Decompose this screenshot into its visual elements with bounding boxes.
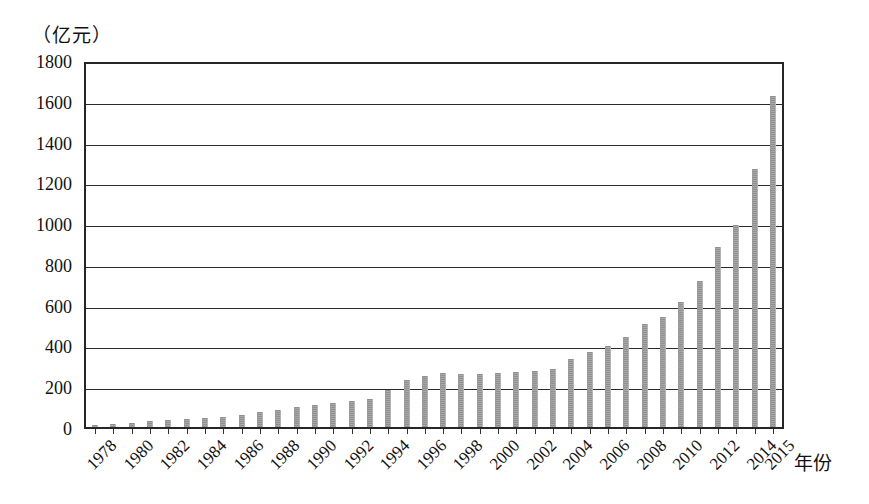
bar-slot [544, 64, 562, 427]
y-axis-tick-1000: 1000 [36, 215, 72, 236]
bar-slot [764, 64, 782, 427]
bar-2012 [715, 247, 721, 427]
bar-1995 [404, 380, 410, 427]
bar-2008 [642, 324, 648, 427]
bar-slot [434, 64, 452, 427]
bar-slot [324, 64, 342, 427]
y-axis-tick-600: 600 [45, 296, 72, 317]
y-axis-tick-400: 400 [45, 337, 72, 358]
x-axis-label-1994: 1994 [376, 436, 414, 474]
bar-slot [471, 64, 489, 427]
bar-slot [709, 64, 727, 427]
y-axis-tick-200: 200 [45, 378, 72, 399]
bar-series [86, 64, 782, 427]
x-axis-label-1980: 1980 [120, 436, 158, 474]
bar-slot [507, 64, 525, 427]
bar-slot [214, 64, 232, 427]
bar-slot [86, 64, 104, 427]
bar-slot [342, 64, 360, 427]
bar-slot [635, 64, 653, 427]
bar-slot [617, 64, 635, 427]
x-axis-label-1982: 1982 [156, 436, 194, 474]
bar-1996 [422, 376, 428, 427]
bar-slot [452, 64, 470, 427]
bar-2009 [660, 317, 666, 427]
bar-slot [690, 64, 708, 427]
bar-slot [654, 64, 672, 427]
bar-1989 [294, 407, 300, 427]
bar-1981 [147, 421, 153, 427]
bar-slot [178, 64, 196, 427]
bar-1980 [129, 423, 135, 427]
x-axis-label-2000: 2000 [486, 436, 524, 474]
x-axis-label-1992: 1992 [340, 436, 378, 474]
bar-slot [196, 64, 214, 427]
bar-2003 [550, 369, 556, 427]
x-axis-label-1998: 1998 [449, 436, 487, 474]
y-axis-tick-1800: 1800 [36, 52, 72, 73]
bar-slot [581, 64, 599, 427]
bar-1985 [220, 417, 226, 427]
bar-1993 [367, 399, 373, 427]
bar-1984 [202, 418, 208, 427]
bar-1986 [239, 415, 245, 427]
bar-2014 [752, 169, 758, 427]
bar-1988 [275, 410, 281, 427]
bar-slot [287, 64, 305, 427]
y-axis-unit-label: （亿元） [32, 20, 112, 47]
bar-1983 [184, 419, 190, 427]
x-axis-label-2010: 2010 [669, 436, 707, 474]
bar-1978 [92, 425, 98, 427]
bar-slot [104, 64, 122, 427]
bar-1992 [349, 401, 355, 427]
x-axis-label-1978: 1978 [83, 436, 121, 474]
bar-slot [379, 64, 397, 427]
bar-1998 [458, 374, 464, 427]
x-axis-label-1986: 1986 [230, 436, 268, 474]
bar-slot [599, 64, 617, 427]
bar-slot [562, 64, 580, 427]
x-axis-label-2008: 2008 [633, 436, 671, 474]
bar-slot [306, 64, 324, 427]
bar-2002 [532, 371, 538, 427]
bar-1994 [385, 390, 391, 427]
bar-slot [672, 64, 690, 427]
y-axis-tick-0: 0 [63, 419, 72, 440]
bar-2013 [733, 225, 739, 427]
bar-1990 [312, 405, 318, 427]
bar-2000 [495, 373, 501, 427]
y-axis-tick-1200: 1200 [36, 174, 72, 195]
x-axis-label-2006: 2006 [596, 436, 634, 474]
x-axis-label-2012: 2012 [706, 436, 744, 474]
bar-slot [489, 64, 507, 427]
bar-1987 [257, 412, 263, 427]
bar-2004 [568, 359, 574, 427]
bar-slot [416, 64, 434, 427]
y-axis-tick-1400: 1400 [36, 133, 72, 154]
bar-slot [526, 64, 544, 427]
chart-figure: （亿元） 180016001400120010008006004002000 1… [0, 0, 869, 504]
y-axis-tick-labels: 180016001400120010008006004002000 [0, 62, 78, 429]
bar-2015 [770, 96, 776, 427]
bar-slot [123, 64, 141, 427]
bar-slot [233, 64, 251, 427]
x-axis-title: 年份 [794, 448, 832, 475]
x-axis-label-1996: 1996 [413, 436, 451, 474]
bar-slot [269, 64, 287, 427]
bar-slot [727, 64, 745, 427]
y-axis-tick-1600: 1600 [36, 92, 72, 113]
bar-2001 [513, 372, 519, 427]
bar-1982 [165, 420, 171, 427]
bar-slot [745, 64, 763, 427]
bar-slot [141, 64, 159, 427]
x-axis-tick-labels: 1978198019821984198619881990199219941996… [86, 434, 782, 486]
bar-1991 [330, 403, 336, 427]
bar-1979 [110, 424, 116, 427]
bar-slot [159, 64, 177, 427]
bar-1999 [477, 374, 483, 427]
bar-2006 [605, 346, 611, 427]
bar-slot [397, 64, 415, 427]
x-axis-label-1988: 1988 [266, 436, 304, 474]
x-axis-label-2002: 2002 [523, 436, 561, 474]
bar-1997 [440, 373, 446, 427]
